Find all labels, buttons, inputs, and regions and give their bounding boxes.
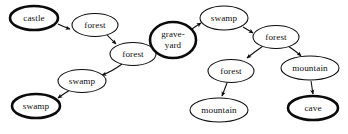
node-label-forest_3: forest bbox=[265, 32, 287, 42]
node-label-forest_1: forest bbox=[84, 20, 106, 30]
node-label-castle: castle bbox=[23, 13, 45, 23]
node-label-forest_2: forest bbox=[122, 49, 144, 59]
edge-graveyard-to-swamp_top bbox=[192, 23, 201, 29]
node-forest_3[interactable]: forest bbox=[253, 26, 299, 49]
node-label-forest_4: forest bbox=[220, 66, 242, 76]
node-label-line: yard bbox=[165, 40, 182, 50]
node-label-cave: cave bbox=[304, 103, 321, 113]
edge-forest_3-to-forest_4 bbox=[247, 46, 263, 58]
node-label-mountain_down: mountain bbox=[201, 105, 237, 115]
node-label-swamp_mid: swamp bbox=[69, 76, 96, 86]
node-swamp_mid[interactable]: swamp bbox=[58, 70, 106, 93]
edge-swamp_top-to-forest_3 bbox=[243, 27, 253, 33]
node-label-swamp_top: swamp bbox=[211, 13, 238, 23]
edge-mountain_up-to-cave bbox=[311, 81, 313, 94]
node-cave[interactable]: cave bbox=[288, 96, 338, 120]
nodes-layer: castleforestforestgrave-yardswampforestf… bbox=[10, 6, 339, 122]
node-swamp_top[interactable]: swamp bbox=[200, 6, 248, 30]
graph-diagram: castleforestforestgrave-yardswampforestf… bbox=[0, 0, 348, 134]
node-label-swamp_low: swamp bbox=[23, 101, 50, 111]
graph-canvas: castleforestforestgrave-yardswampforestf… bbox=[0, 0, 348, 134]
node-castle[interactable]: castle bbox=[10, 6, 58, 30]
edge-forest_4-to-mountain_down bbox=[222, 83, 227, 96]
node-label-line: grave- bbox=[161, 29, 185, 39]
edge-forest_3-to-mountain_up bbox=[288, 46, 301, 56]
node-forest_1[interactable]: forest bbox=[72, 14, 118, 37]
node-swamp_low[interactable]: swamp bbox=[12, 94, 60, 118]
node-mountain_up[interactable]: mountain bbox=[281, 56, 339, 80]
node-forest_4[interactable]: forest bbox=[208, 60, 254, 83]
edge-castle-to-forest_1 bbox=[58, 24, 70, 29]
edge-swamp_mid-to-swamp_low bbox=[58, 90, 70, 98]
node-label-mountain_up: mountain bbox=[292, 63, 328, 73]
edge-forest_1-to-forest_2 bbox=[106, 34, 116, 44]
node-graveyard[interactable]: grave-yard bbox=[150, 22, 196, 58]
edge-forest_2-to-swamp_mid bbox=[102, 64, 122, 75]
node-forest_2[interactable]: forest bbox=[110, 43, 156, 66]
node-mountain_down[interactable]: mountain bbox=[190, 98, 248, 122]
